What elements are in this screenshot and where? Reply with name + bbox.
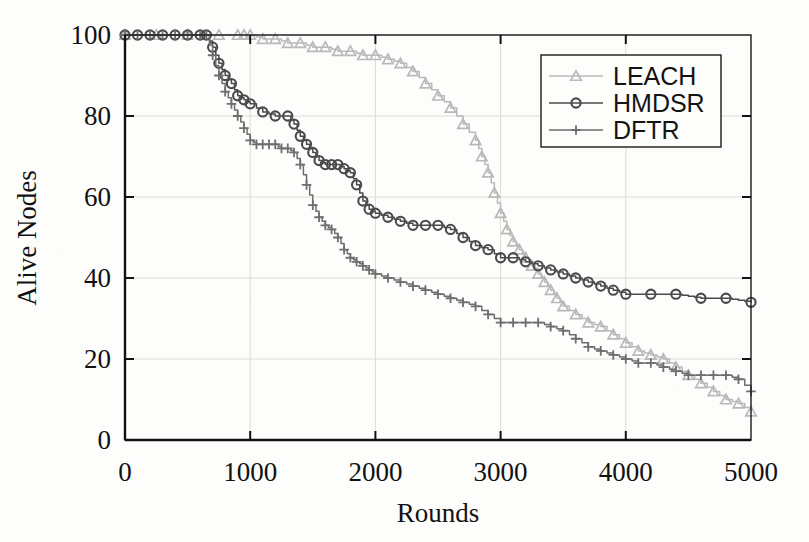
data-marker-plus — [396, 277, 406, 287]
chart-legend: LEACHHMDSRDFTR — [541, 55, 721, 147]
y-axis-title: Alive Nodes — [12, 170, 42, 306]
data-marker-plus — [508, 318, 518, 328]
x-tick-label: 0 — [118, 457, 132, 487]
data-marker-plus — [421, 285, 431, 295]
legend-label: HMDSR — [613, 89, 705, 117]
data-marker-plus — [621, 354, 631, 364]
data-marker-plus — [408, 281, 418, 291]
data-marker-plus — [446, 293, 456, 303]
y-tick-label: 80 — [84, 101, 111, 131]
y-tick-label: 20 — [84, 344, 111, 374]
x-tick-label: 5000 — [724, 457, 778, 487]
y-tick-label: 40 — [84, 263, 111, 293]
chart-page: 020406080100010002000300040005000 LEACHH… — [0, 0, 809, 542]
data-marker-plus — [546, 322, 556, 332]
data-marker-plus — [734, 374, 744, 384]
y-tick-label: 0 — [98, 425, 112, 455]
legend-label: DFTR — [613, 116, 680, 144]
data-marker-plus — [558, 326, 568, 336]
x-tick-label: 2000 — [348, 457, 402, 487]
data-marker-plus — [383, 273, 393, 283]
y-tick-label: 100 — [71, 20, 112, 50]
alive-nodes-chart: 020406080100010002000300040005000 LEACHH… — [0, 0, 809, 542]
data-marker-plus — [458, 298, 468, 308]
data-marker-plus — [608, 350, 618, 360]
data-marker-plus — [709, 370, 719, 380]
x-axis-title: Rounds — [397, 498, 480, 528]
legend-label: LEACH — [613, 62, 696, 90]
x-tick-label: 4000 — [599, 457, 653, 487]
data-marker-plus — [634, 358, 644, 368]
x-tick-label: 3000 — [474, 457, 528, 487]
data-marker-plus — [471, 302, 481, 312]
data-marker-plus — [521, 318, 531, 328]
data-marker-plus — [533, 318, 543, 328]
data-marker-plus — [721, 370, 731, 380]
data-marker-plus — [596, 346, 606, 356]
y-tick-label: 60 — [84, 182, 111, 212]
x-tick-label: 1000 — [223, 457, 277, 487]
data-marker-plus — [433, 289, 443, 299]
